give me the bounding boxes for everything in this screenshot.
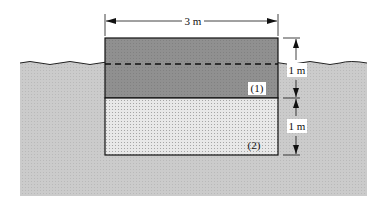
width-label: 3 m <box>185 15 202 27</box>
arrow-up-icon <box>293 39 299 48</box>
buoyancy-diagram: 3 m 1 m 1 m (1) (2) <box>0 0 389 205</box>
arrow-left-icon <box>106 18 116 24</box>
layer-1-label: (1) <box>251 82 264 95</box>
arrow-right-icon <box>267 18 277 24</box>
upper-height-label: 1 m <box>289 64 306 76</box>
lower-height-label: 1 m <box>289 120 306 132</box>
layer-2-label: (2) <box>248 139 261 152</box>
